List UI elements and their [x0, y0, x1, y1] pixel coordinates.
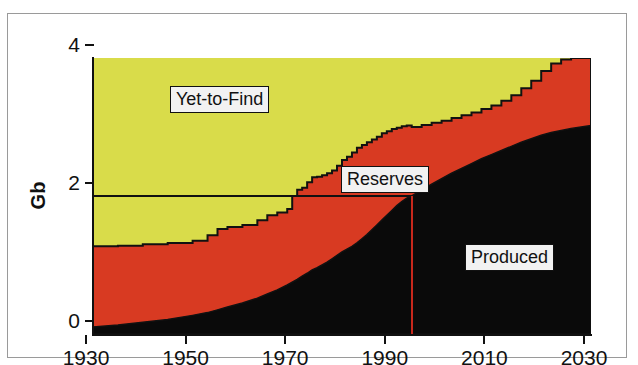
- y-tick-mark: [85, 320, 94, 322]
- x-tick-mark: [284, 335, 286, 344]
- y-axis-title: Gb: [27, 164, 50, 228]
- x-tick-label: 2030: [549, 347, 619, 365]
- x-tick-label: 2010: [449, 347, 519, 365]
- figure-container: 024 193019501970199020102030 Gb Yet-to-F…: [0, 0, 638, 365]
- current-year-marker-line: [411, 196, 413, 334]
- x-tick-mark: [185, 335, 187, 344]
- y-axis-line: [92, 57, 94, 335]
- y-tick-mark: [85, 44, 94, 46]
- y-tick-label: 2: [56, 172, 80, 193]
- annotation-produced: Produced: [465, 244, 554, 271]
- annotation-reserves: Reserves: [341, 166, 429, 193]
- x-tick-mark: [483, 335, 485, 344]
- y-tick-mark: [85, 182, 94, 184]
- annotation-yet-to-find: Yet-to-Find: [170, 86, 269, 113]
- x-tick-mark: [583, 335, 585, 344]
- x-tick-mark: [384, 335, 386, 344]
- plot-area: [93, 58, 591, 334]
- x-tick-label: 1950: [151, 347, 221, 365]
- y-tick-label: 0: [56, 310, 80, 331]
- figure-frame: 024 193019501970199020102030 Gb Yet-to-F…: [7, 13, 627, 358]
- y-tick-label: 4: [56, 34, 80, 55]
- x-tick-label: 1970: [250, 347, 320, 365]
- two-gb-reference-line: [93, 195, 412, 197]
- x-axis-line: [92, 334, 592, 336]
- x-tick-label: 1990: [350, 347, 420, 365]
- x-tick-label: 1930: [51, 347, 121, 365]
- x-tick-mark: [85, 335, 87, 344]
